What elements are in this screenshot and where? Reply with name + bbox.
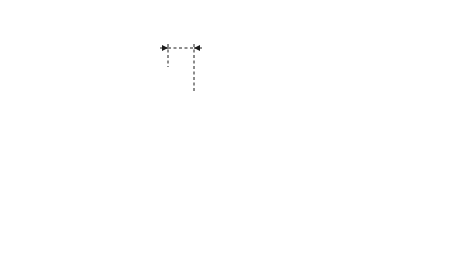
gap-dimension (160, 44, 202, 92)
gap-right-arrowhead (194, 45, 200, 51)
gap-left-arrowhead (162, 45, 168, 51)
pipelining-diagram (0, 0, 464, 265)
